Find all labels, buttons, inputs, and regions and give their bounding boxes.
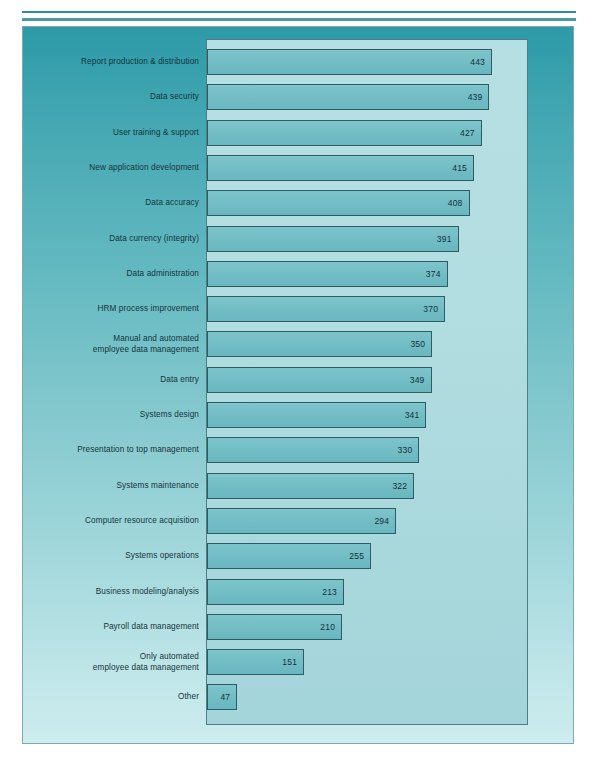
bar: 330 xyxy=(207,437,419,463)
category-label: Report production & distribution xyxy=(24,57,199,68)
bar: 341 xyxy=(207,402,426,428)
category-label: Systems maintenance xyxy=(24,480,199,491)
bar-value-label: 349 xyxy=(410,375,425,385)
category-label: Systems operations xyxy=(24,551,199,562)
bar: 439 xyxy=(207,84,489,110)
chart-row: New application development415 xyxy=(207,155,527,181)
chart-row: Systems operations255 xyxy=(207,543,527,569)
category-label: Computer resource acquisition xyxy=(24,516,199,527)
category-label: HRM process improvement xyxy=(24,304,199,315)
bar-value-label: 151 xyxy=(282,657,297,667)
bar-value-label: 370 xyxy=(423,304,438,314)
category-label: New application development xyxy=(24,163,199,174)
bar: 294 xyxy=(207,508,396,534)
chart-row: Report production & distribution443 xyxy=(207,49,527,75)
category-label: Other xyxy=(24,692,199,703)
bar: 213 xyxy=(207,579,344,605)
bar-value-label: 350 xyxy=(410,339,425,349)
bar-value-label: 294 xyxy=(374,516,389,526)
bar-value-label: 210 xyxy=(320,622,335,632)
category-label: Business modeling/analysis xyxy=(24,586,199,597)
bar-value-label: 443 xyxy=(470,57,485,67)
bar: 391 xyxy=(207,226,459,252)
chart-row: Computer resource acquisition294 xyxy=(207,508,527,534)
bar: 408 xyxy=(207,190,470,216)
category-label: Data entry xyxy=(24,374,199,385)
category-label: Only automated employee data management xyxy=(24,652,199,673)
bar-value-label: 47 xyxy=(220,692,230,702)
bar-value-label: 391 xyxy=(437,234,452,244)
chart-row: Data administration374 xyxy=(207,261,527,287)
bar-value-label: 415 xyxy=(452,163,467,173)
category-label: Data currency (integrity) xyxy=(24,233,199,244)
category-label: Data administration xyxy=(24,269,199,280)
bar: 349 xyxy=(207,367,432,393)
bar: 443 xyxy=(207,49,492,75)
chart-row: Presentation to top management330 xyxy=(207,437,527,463)
chart-row: Payroll data management210 xyxy=(207,614,527,640)
bar-value-label: 341 xyxy=(405,410,420,420)
bar: 151 xyxy=(207,649,304,675)
bar-value-label: 408 xyxy=(448,198,463,208)
bar-value-label: 330 xyxy=(398,445,413,455)
header-rule-thick xyxy=(22,18,576,21)
category-label: Data security xyxy=(24,92,199,103)
category-label: Systems design xyxy=(24,410,199,421)
category-label: Payroll data management xyxy=(24,622,199,633)
bar: 370 xyxy=(207,296,445,322)
bar: 415 xyxy=(207,155,474,181)
bar-value-label: 439 xyxy=(468,92,483,102)
category-label: Manual and automated employee data manag… xyxy=(24,334,199,355)
chart-row: Business modeling/analysis213 xyxy=(207,579,527,605)
bar-value-label: 374 xyxy=(426,269,441,279)
bar-value-label: 255 xyxy=(349,551,364,561)
chart-row: Data entry349 xyxy=(207,367,527,393)
chart-panel: Report production & distribution443Data … xyxy=(22,26,574,744)
category-label: Presentation to top management xyxy=(24,445,199,456)
chart-row: Data security439 xyxy=(207,84,527,110)
bar: 350 xyxy=(207,331,432,357)
chart-row: Only automated employee data management1… xyxy=(207,649,527,675)
chart-row: Data currency (integrity)391 xyxy=(207,226,527,252)
bar: 47 xyxy=(207,684,237,710)
category-label: Data accuracy xyxy=(24,198,199,209)
chart-row: User training & support427 xyxy=(207,120,527,146)
category-label: User training & support xyxy=(24,127,199,138)
header-rule-thin xyxy=(22,11,576,13)
bar: 427 xyxy=(207,120,482,146)
header-rules xyxy=(22,10,576,24)
bar: 374 xyxy=(207,261,448,287)
bar: 255 xyxy=(207,543,371,569)
chart-row: Manual and automated employee data manag… xyxy=(207,331,527,357)
chart-row: Data accuracy408 xyxy=(207,190,527,216)
plot-area: Report production & distribution443Data … xyxy=(206,39,528,725)
chart-row: Systems maintenance322 xyxy=(207,473,527,499)
chart-row: HRM process improvement370 xyxy=(207,296,527,322)
bar-value-label: 213 xyxy=(322,587,337,597)
chart-row: Other47 xyxy=(207,684,527,710)
bar: 210 xyxy=(207,614,342,640)
bar-value-label: 322 xyxy=(392,481,407,491)
bar-value-label: 427 xyxy=(460,128,475,138)
bar: 322 xyxy=(207,473,414,499)
chart-row: Systems design341 xyxy=(207,402,527,428)
